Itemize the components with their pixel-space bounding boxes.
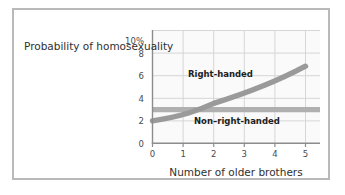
xtick-label-2: 2 xyxy=(204,149,224,159)
series-label-non-right-handed: Non–right-handed xyxy=(194,116,280,126)
xtick-label-1: 1 xyxy=(173,149,193,159)
xtick-label-4: 4 xyxy=(265,149,285,159)
xtick-label-3: 3 xyxy=(234,149,254,159)
ytick-label-2: 2 xyxy=(104,116,144,126)
y-axis-label: Probability of homosexuality xyxy=(24,40,110,53)
ytick-label-0: 0 xyxy=(104,139,144,149)
plot-background xyxy=(152,30,320,143)
ytick-label-6: 6 xyxy=(104,71,144,81)
ytick-label-4: 4 xyxy=(104,94,144,104)
series-label-right-handed: Right-handed xyxy=(188,69,253,79)
xtick-label-5: 5 xyxy=(296,149,316,159)
figure-container: 10% 8 6 4 2 0 0 1 2 3 4 5 Probability of… xyxy=(0,0,345,195)
x-axis-label: Number of older brothers xyxy=(146,166,326,178)
xtick-label-0: 0 xyxy=(143,149,163,159)
